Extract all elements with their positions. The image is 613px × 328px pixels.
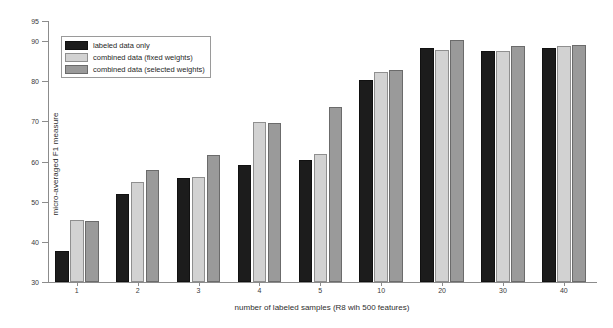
legend-label: combined data (fixed weights) <box>93 53 193 62</box>
bar <box>435 50 449 282</box>
bar <box>374 72 388 282</box>
x-axis-tick <box>503 282 504 286</box>
bar <box>299 160 313 282</box>
legend-swatch <box>65 53 88 62</box>
x-axis-tick-label: 20 <box>438 287 446 294</box>
bar <box>192 177 206 282</box>
bar-chart-figure: micro-averaged F1 measure 95908070605040… <box>0 0 613 328</box>
bar <box>496 51 510 282</box>
bar <box>177 178 191 282</box>
bar <box>542 48 556 282</box>
x-axis-tick-label: 10 <box>377 287 385 294</box>
x-axis-title: number of labeled samples (R8 wih 500 fe… <box>48 303 596 312</box>
x-axis-tick-label: 1 <box>75 287 79 294</box>
x-axis-tick-label: 3 <box>197 287 201 294</box>
x-axis-tick-label: 30 <box>499 287 507 294</box>
bar <box>572 45 586 282</box>
bar <box>207 155 221 282</box>
y-axis-tick: 95 <box>42 21 49 22</box>
x-axis-tick <box>442 282 443 286</box>
bar <box>238 165 252 282</box>
x-axis-tick <box>320 282 321 286</box>
bar <box>146 170 160 282</box>
y-axis-tick-label: 30 <box>31 277 39 288</box>
x-axis-tick <box>564 282 565 286</box>
bar <box>131 182 145 282</box>
y-axis-tick-label: 80 <box>31 76 39 87</box>
y-axis-tick-label: 60 <box>31 157 39 168</box>
bar <box>481 51 495 282</box>
chart-legend: labeled data onlycombined data (fixed we… <box>61 36 211 78</box>
bar <box>557 46 571 283</box>
y-axis-tick-label: 90 <box>31 36 39 47</box>
y-axis-tick: 50 <box>42 202 49 203</box>
bar <box>55 251 69 282</box>
bar <box>268 123 282 282</box>
bar <box>329 107 343 282</box>
x-axis-tick <box>77 282 78 286</box>
x-axis-tick-label: 40 <box>560 287 568 294</box>
y-axis-tick-label: 40 <box>31 237 39 248</box>
legend-swatch <box>65 65 88 74</box>
bar <box>450 40 464 282</box>
y-axis-tick: 60 <box>42 162 49 163</box>
y-axis-tick: 30 <box>42 282 49 283</box>
x-axis-tick-label: 2 <box>136 287 140 294</box>
legend-entry: combined data (selected weights) <box>65 64 205 74</box>
bar <box>359 80 373 282</box>
legend-swatch <box>65 41 88 50</box>
x-axis-tick <box>199 282 200 286</box>
y-axis-tick-label: 95 <box>31 16 39 27</box>
legend-label: labeled data only <box>93 41 150 50</box>
bar <box>511 46 525 282</box>
bar <box>253 122 267 282</box>
x-axis-tick <box>259 282 260 286</box>
bar <box>314 154 328 282</box>
legend-entry: combined data (fixed weights) <box>65 52 205 62</box>
y-axis-tick-label: 70 <box>31 116 39 127</box>
legend-entry: labeled data only <box>65 40 205 50</box>
y-axis-tick: 40 <box>42 242 49 243</box>
x-axis-tick-label: 5 <box>318 287 322 294</box>
bar <box>116 194 130 282</box>
y-axis-tick: 70 <box>42 121 49 122</box>
legend-label: combined data (selected weights) <box>93 65 205 74</box>
bar <box>85 221 99 282</box>
bar <box>389 70 403 282</box>
y-axis-tick-label: 50 <box>31 197 39 208</box>
y-axis-tick: 90 <box>42 41 49 42</box>
bar <box>70 220 84 282</box>
x-axis-tick <box>138 282 139 286</box>
bar <box>420 48 434 282</box>
y-axis-tick: 80 <box>42 81 49 82</box>
x-axis-tick-label: 4 <box>257 287 261 294</box>
x-axis-tick <box>381 282 382 286</box>
